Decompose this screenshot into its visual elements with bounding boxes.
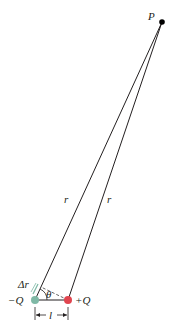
line-neg-to-p [35, 22, 162, 300]
label-r-left: r [64, 193, 69, 205]
label-r-right: r [107, 193, 112, 205]
label-neg-charge: −Q [8, 294, 23, 306]
sep-arrowhead-right [63, 313, 67, 317]
label-pos-charge: +Q [75, 294, 90, 306]
delta-r-bracket [33, 284, 38, 294]
line-pos-to-p [68, 22, 162, 300]
label-theta: θ [46, 288, 52, 300]
sep-arrowhead-left [36, 313, 40, 317]
pos-charge [64, 296, 72, 304]
dipole-diagram: P r r Δr θ −Q +Q l [0, 0, 170, 330]
point-p [159, 19, 165, 25]
label-p: P [147, 10, 155, 22]
neg-charge [31, 296, 39, 304]
label-delta-r: Δr [17, 278, 29, 290]
label-separation: l [49, 309, 52, 321]
